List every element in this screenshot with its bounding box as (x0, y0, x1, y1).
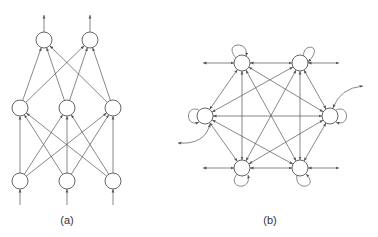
recurrent-neuron (322, 108, 338, 124)
input-neuron (105, 173, 121, 189)
external-io-curve (178, 124, 210, 143)
panel-b-label: (b) (263, 214, 276, 226)
bidirectional-edge (304, 70, 326, 109)
bidirectional-edge (249, 120, 323, 164)
input-neuron (59, 173, 75, 189)
bidirectional-edge (210, 123, 238, 162)
feedforward-network-panel (12, 15, 121, 205)
bidirectional-edge (304, 123, 326, 161)
bidirectional-edge (212, 67, 293, 112)
hidden-output-edge (50, 46, 108, 103)
hidden-neuron (59, 100, 75, 116)
hidden-neuron (105, 100, 121, 116)
output-neuron (36, 32, 52, 48)
recurrent-neuron (197, 108, 213, 124)
bidirectional-edge (249, 67, 323, 112)
recurrent-network-panel (178, 45, 363, 186)
output-neuron (82, 32, 98, 48)
hidden-output-edge (93, 48, 111, 101)
hidden-output-edge (47, 48, 65, 101)
bidirectional-edge (210, 70, 238, 110)
hidden-output-edge (26, 46, 85, 103)
recurrent-neuron (292, 55, 308, 71)
recurrent-neuron (292, 160, 308, 176)
hidden-output-edge (23, 48, 42, 101)
recurrent-neuron (234, 55, 250, 71)
bidirectional-edge (212, 120, 293, 164)
input-neuron (12, 173, 28, 189)
panel-a-label: (a) (60, 214, 73, 226)
external-io-curve (333, 86, 363, 108)
recurrent-neuron (234, 160, 250, 176)
hidden-neuron (12, 100, 28, 116)
neural-network-figure: (a) (b) (0, 0, 378, 237)
